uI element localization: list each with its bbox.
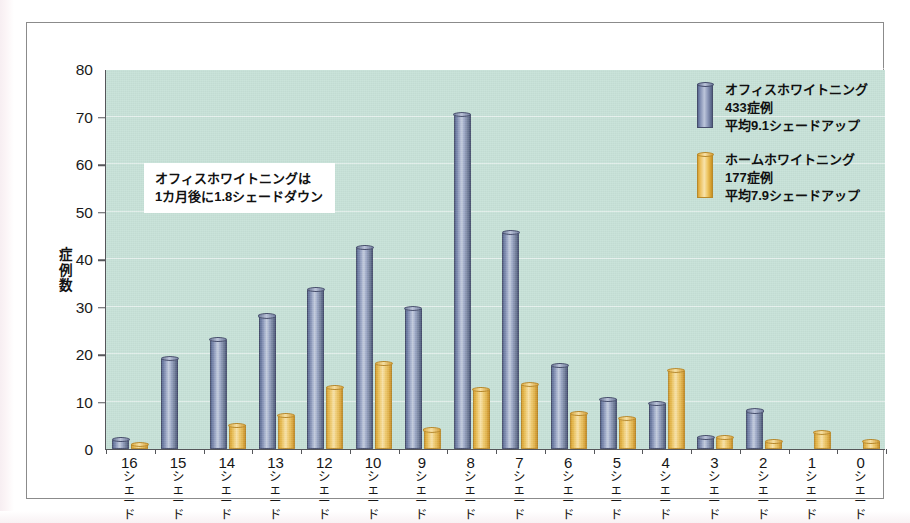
legend-home-cases: 177症例 xyxy=(725,169,860,187)
x-tick-unit: シェード xyxy=(114,471,144,521)
bar-home xyxy=(424,430,441,449)
bar-office xyxy=(697,437,714,449)
x-tick-label: 6シェード xyxy=(553,455,583,521)
y-axis-title: 症 例 数 xyxy=(55,247,75,294)
x-tick-label: 7シェード xyxy=(504,455,534,521)
bar-home xyxy=(668,371,685,449)
x-tick-unit: シェード xyxy=(699,471,729,521)
x-tick-mark xyxy=(740,449,741,454)
x-tick-label: 2シェード xyxy=(748,455,778,521)
legend: オフィスホワイトニング 433症例 平均9.1シェードアップ ホームホワイトニン… xyxy=(697,81,868,221)
x-tick-label: 16シェード xyxy=(114,455,144,521)
y-tick-mark xyxy=(98,307,105,309)
bar-office xyxy=(746,411,763,449)
y-tick-label: 30 xyxy=(76,299,93,317)
x-tick-label: 15シェード xyxy=(163,455,193,521)
x-tick-label: 12シェード xyxy=(309,455,339,521)
x-tick-label: 14シェード xyxy=(212,455,242,521)
x-tick-unit: シェード xyxy=(212,471,242,521)
bar-office xyxy=(259,316,276,449)
bar-home xyxy=(326,387,343,449)
x-tick-number: 7 xyxy=(504,455,534,471)
x-tick-mark xyxy=(106,449,107,454)
x-tick-label: 13シェード xyxy=(261,455,291,521)
y-tick-mark xyxy=(98,164,105,166)
bar-home xyxy=(863,442,880,449)
y-tick-mark xyxy=(98,259,105,261)
y-axis: 01020304050607080 xyxy=(27,23,105,450)
figure-frame: 01020304050607080 症 例 数 16シェード15シェード14シェ… xyxy=(26,22,884,499)
x-tick-unit: シェード xyxy=(456,471,486,521)
x-tick-label: 10シェード xyxy=(358,455,388,521)
legend-home-name: ホームホワイトニング xyxy=(725,151,860,169)
x-tick-unit: シェード xyxy=(651,471,681,521)
x-tick-mark xyxy=(886,449,887,454)
x-tick-number: 8 xyxy=(456,455,486,471)
bar-home xyxy=(765,442,782,449)
x-tick-label: 8シェード xyxy=(456,455,486,521)
x-tick-number: 13 xyxy=(261,455,291,471)
bar-office xyxy=(112,440,129,450)
bar-home xyxy=(278,416,295,449)
annotation-callout: オフィスホワイトニングは 1カ月後に1.8シェードダウン xyxy=(144,163,335,213)
legend-text-office: オフィスホワイトニング 433症例 平均9.1シェードアップ xyxy=(725,81,868,135)
y-tick-label: 0 xyxy=(84,441,93,459)
y-axis-title-char-1: 症 xyxy=(55,247,75,263)
x-tick-mark xyxy=(447,449,448,454)
bar-office xyxy=(356,247,373,449)
bar-home xyxy=(814,432,831,449)
x-tick-mark xyxy=(545,449,546,454)
x-tick-number: 1 xyxy=(797,455,827,471)
bar-office xyxy=(600,399,617,449)
bar-home xyxy=(229,425,246,449)
x-tick-unit: シェード xyxy=(748,471,778,521)
legend-office-average: 平均9.1シェードアップ xyxy=(725,117,868,135)
y-axis-title-char-2: 例 xyxy=(55,263,75,279)
legend-entry-home: ホームホワイトニング 177症例 平均7.9シェードアップ xyxy=(697,151,868,205)
x-tick-mark xyxy=(496,449,497,454)
y-tick-mark xyxy=(98,402,105,404)
legend-swatch-yellow-icon xyxy=(697,154,713,198)
x-tick-mark xyxy=(301,449,302,454)
x-tick-number: 0 xyxy=(846,455,876,471)
x-tick-mark xyxy=(399,449,400,454)
x-tick-unit: シェード xyxy=(553,471,583,521)
y-tick-mark xyxy=(98,212,105,214)
bar-office xyxy=(649,404,666,449)
annotation-line-2: 1カ月後に1.8シェードダウン xyxy=(155,188,323,206)
legend-entry-office: オフィスホワイトニング 433症例 平均9.1シェードアップ xyxy=(697,81,868,135)
bar-home xyxy=(521,385,538,449)
bar-office xyxy=(210,340,227,449)
y-tick-mark xyxy=(98,354,105,356)
x-tick-unit: シェード xyxy=(358,471,388,521)
x-tick-mark xyxy=(642,449,643,454)
x-tick-number: 12 xyxy=(309,455,339,471)
x-tick-label: 3シェード xyxy=(699,455,729,521)
x-tick-mark xyxy=(691,449,692,454)
annotation-line-1: オフィスホワイトニングは xyxy=(155,170,323,188)
bar-home xyxy=(131,444,148,449)
x-tick-mark xyxy=(594,449,595,454)
legend-text-home: ホームホワイトニング 177症例 平均7.9シェードアップ xyxy=(725,151,860,205)
bar-office xyxy=(161,359,178,449)
y-tick-mark xyxy=(98,117,105,119)
x-tick-mark xyxy=(789,449,790,454)
y-axis-title-char-3: 数 xyxy=(55,278,75,294)
x-tick-label: 4シェード xyxy=(651,455,681,521)
x-tick-number: 10 xyxy=(358,455,388,471)
legend-home-average: 平均7.9シェードアップ xyxy=(725,187,860,205)
x-tick-unit: シェード xyxy=(309,471,339,521)
x-tick-unit: シェード xyxy=(846,471,876,521)
x-tick-number: 3 xyxy=(699,455,729,471)
x-tick-unit: シェード xyxy=(407,471,437,521)
bar-office xyxy=(551,366,568,449)
x-tick-mark xyxy=(350,449,351,454)
x-tick-label: 5シェード xyxy=(602,455,632,521)
x-tick-number: 4 xyxy=(651,455,681,471)
x-tick-unit: シェード xyxy=(504,471,534,521)
x-tick-unit: シェード xyxy=(261,471,291,521)
x-tick-mark xyxy=(252,449,253,454)
x-tick-label: 1シェード xyxy=(797,455,827,521)
bar-home xyxy=(473,390,490,449)
bar-office xyxy=(405,309,422,449)
